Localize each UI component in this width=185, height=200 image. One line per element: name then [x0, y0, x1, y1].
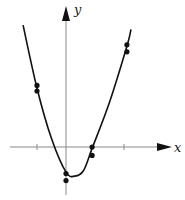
x-axis-label: x	[174, 140, 182, 155]
chart-plot: x y	[0, 0, 185, 200]
data-point	[63, 178, 68, 183]
y-axis-arrow-icon	[62, 6, 70, 21]
axes: x y	[10, 2, 182, 195]
y-axis-label: y	[73, 2, 82, 17]
data-point	[90, 153, 95, 158]
data-point	[124, 49, 129, 54]
data-point	[63, 171, 68, 176]
data-points	[34, 42, 129, 183]
fitted-parabola-curve	[23, 25, 131, 176]
data-point	[34, 83, 39, 88]
data-point	[90, 144, 95, 149]
data-point	[34, 88, 39, 93]
x-axis-arrow-icon	[157, 143, 172, 151]
data-point	[124, 42, 129, 47]
